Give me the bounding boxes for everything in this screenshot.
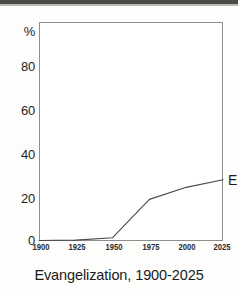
x-axis-tick-2000: 2000 <box>169 243 205 252</box>
chart-title: Evangelization, 1900-2025 <box>0 268 238 283</box>
y-axis-tick-40: 40 <box>1 148 35 161</box>
top-edge-band-fade <box>0 4 238 6</box>
y-axis-tick-60: 60 <box>1 104 35 117</box>
y-axis-tick-80: 80 <box>1 60 35 73</box>
series-end-label: E <box>228 173 237 187</box>
x-axis-tick-1975: 1975 <box>133 243 169 252</box>
y-axis-tick-20: 20 <box>1 192 35 205</box>
x-axis-tick-2025: 2025 <box>204 243 238 252</box>
y-axis-unit-label: % <box>1 25 35 38</box>
data-series-line <box>39 180 223 241</box>
x-axis-tick-1925: 1925 <box>59 243 95 252</box>
x-axis-tick-1900: 1900 <box>23 243 59 252</box>
chart-figure: % 80 60 40 20 0 1900 1925 1950 1975 2000… <box>0 0 238 295</box>
x-axis-tick-1950: 1950 <box>96 243 132 252</box>
plot-canvas <box>39 22 223 241</box>
x-axis-labels: 1900 1925 1950 1975 2000 2025 <box>0 243 238 257</box>
